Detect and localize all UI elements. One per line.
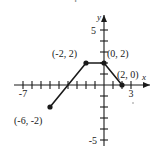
scan-speck <box>132 102 134 104</box>
point-label-0-2: (0, 2) <box>107 48 129 60</box>
y-tick-label-5: 5 <box>91 25 96 36</box>
y-axis-label: y <box>96 12 101 22</box>
data-point-2-0 <box>119 82 124 87</box>
point-label-2-0: (2, 0) <box>117 69 139 81</box>
point-label-minus2-2: (-2, 2) <box>52 48 77 60</box>
y-axis-arrow-icon <box>101 15 107 22</box>
point-label-minus6-minus2: (-6, -2) <box>14 115 42 127</box>
graph-figure: Exercise 2 Graph <box>0 0 160 156</box>
x-tick-label-3: 3 <box>129 88 134 99</box>
x-axis-label: x <box>141 72 146 82</box>
coordinate-plane-svg: (-2, 2) (0, 2) (2, 0) (-6, -2) -7 3 5 -5… <box>0 0 160 156</box>
x-axis-arrow-icon <box>143 82 150 88</box>
data-point-minus6-minus2 <box>47 104 52 109</box>
data-point-minus2-2 <box>83 60 88 65</box>
y-tick-label-minus5: -5 <box>89 135 97 146</box>
clipped-heading-text: Exercise 2 Graph <box>16 0 111 2</box>
data-point-0-2 <box>101 60 106 65</box>
x-tick-label-minus7: -7 <box>19 88 27 99</box>
